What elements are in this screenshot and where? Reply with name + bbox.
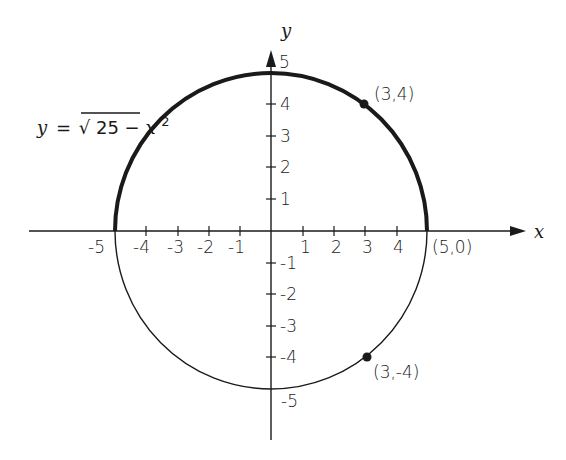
x-tick-label: -4 [133, 237, 150, 257]
x-tick-label: 3 [362, 237, 373, 257]
x-tick-label: 4 [393, 237, 404, 257]
point-label: (3,4) [374, 84, 414, 104]
x-tick-label: -5 [88, 237, 105, 257]
x-tick-label: -2 [197, 237, 214, 257]
y-tick-label: -4 [280, 347, 297, 367]
x-axis-arrow-icon [510, 226, 526, 236]
formula-equals: = [56, 117, 71, 138]
x-tick-label: -1 [228, 237, 245, 257]
intercept-label: (5,0) [432, 237, 472, 257]
point-3-4: (3,4) [360, 84, 415, 109]
formula-lhs: y [36, 117, 48, 138]
y-tick-label: 3 [280, 126, 291, 146]
formula-minus: − [125, 117, 140, 138]
x-tick-label: 2 [331, 237, 342, 257]
formula-radicand-var: x [145, 117, 155, 138]
y-tick-label: 2 [280, 157, 291, 177]
y-axis-arrow-icon [266, 50, 276, 67]
point-dot-icon [363, 353, 372, 362]
x-axis-label: x [534, 221, 544, 242]
y-tick-label: 5 [279, 52, 290, 72]
formula-label: y = √ 25 − x 2 [36, 113, 170, 138]
svg-text:y = √ 25: y = √ 25 − x 2 [36, 114, 170, 138]
formula-radical-icon: √ [79, 117, 91, 138]
formula-exponent: 2 [161, 114, 169, 129]
point-3-neg4: (3,-4) [363, 353, 420, 383]
y-tick-label: -1 [280, 253, 297, 273]
y-tick-label: -5 [281, 391, 298, 411]
formula-radicand-const: 25 [96, 117, 119, 138]
x-tick-label: -3 [167, 237, 184, 257]
y-tick-label: 1 [280, 189, 291, 209]
y-axis: y [266, 20, 292, 440]
y-tick-label: 4 [280, 94, 291, 114]
x-tick-label: 1 [300, 237, 311, 257]
y-tick-label: -2 [280, 284, 297, 304]
y-tick-label: -3 [280, 316, 297, 336]
point-dot-icon [360, 100, 369, 109]
y-axis-label: y [280, 20, 292, 41]
circle-graph: x y -5 -4 -3 -2 -1 1 2 3 4 5 4 [0, 0, 566, 460]
point-label: (3,-4) [373, 362, 419, 382]
